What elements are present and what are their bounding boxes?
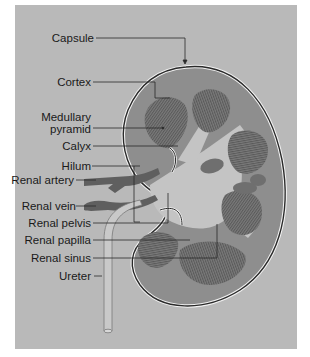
label-renal-papilla: Renal papilla bbox=[25, 234, 92, 246]
label-cortex: Cortex bbox=[57, 76, 91, 88]
label-renal-pelvis: Renal pelvis bbox=[28, 217, 91, 229]
label-medullary-line2: pyramid bbox=[50, 123, 91, 135]
label-renal-artery: Renal artery bbox=[11, 174, 74, 186]
label-renal-vein: Renal vein bbox=[22, 200, 76, 212]
label-capsule: Capsule bbox=[52, 32, 94, 44]
label-hilum: Hilum bbox=[62, 160, 91, 172]
label-renal-sinus: Renal sinus bbox=[31, 252, 91, 264]
label-ureter: Ureter bbox=[59, 270, 91, 282]
label-medullary-line1: Medullary bbox=[41, 111, 91, 123]
label-calyx: Calyx bbox=[62, 140, 91, 152]
